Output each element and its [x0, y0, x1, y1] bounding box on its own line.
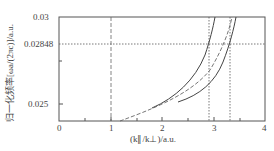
x-tick-0: 0	[57, 123, 62, 133]
x-axis-label: (k∥/k⊥)/a.u.	[130, 134, 176, 144]
plot-frame	[59, 17, 265, 121]
x-tick-4: 4	[262, 123, 267, 133]
curve-solid-left	[152, 17, 215, 108]
y-tick-0.03: 0.03	[33, 12, 49, 22]
x-tick-2: 2	[160, 123, 165, 133]
y-axis-label: 归一化频率[ωa/(2πc)]/a.u.	[2, 18, 16, 128]
x-tick-3: 3	[212, 123, 217, 133]
x-tick-1: 1	[109, 123, 114, 133]
chart-plot	[0, 0, 274, 151]
curve-solid-right	[178, 17, 236, 102]
y-tick-0.02848: 0.02848	[24, 39, 53, 49]
curve-dashed	[120, 17, 232, 121]
y-tick-0.025: 0.025	[28, 99, 48, 109]
